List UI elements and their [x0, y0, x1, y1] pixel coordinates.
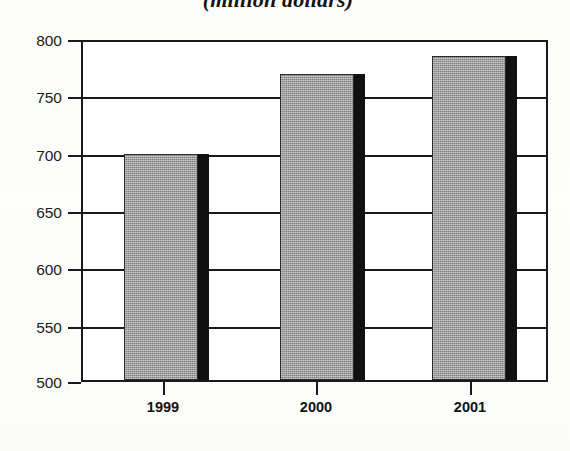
y-tick-mark-500: [68, 382, 81, 384]
y-tick-label-650: 650: [16, 205, 62, 221]
bar-body-2001: [432, 56, 506, 380]
plot-area: [81, 40, 548, 382]
y-tick-label-600: 600: [16, 262, 62, 278]
x-tick-label-2001: 2001: [420, 399, 520, 415]
y-tick-mark-650: [68, 212, 81, 214]
x-tick-mark-1999: [163, 382, 165, 395]
chart-title: (million dollars): [0, 0, 556, 13]
x-tick-label-2000: 2000: [266, 399, 366, 415]
y-tick-mark-750: [68, 97, 81, 99]
y-tick-mark-600: [68, 269, 81, 271]
y-tick-label-550: 550: [16, 320, 62, 336]
y-tick-mark-550: [68, 327, 81, 329]
y-tick-mark-700: [68, 155, 81, 157]
y-tick-label-700: 700: [16, 148, 62, 164]
bar-body-1999: [124, 154, 198, 380]
bar-body-2000: [280, 74, 354, 380]
y-tick-label-500: 500: [16, 375, 62, 391]
bar-1999[interactable]: [124, 154, 209, 380]
x-tick-mark-2001: [470, 382, 472, 395]
y-tick-label-750: 750: [16, 90, 62, 106]
bar-2001[interactable]: [432, 56, 517, 380]
y-tick-label-800: 800: [16, 33, 62, 49]
bar-2000[interactable]: [280, 74, 365, 380]
x-tick-label-1999: 1999: [113, 399, 213, 415]
x-tick-mark-2000: [316, 382, 318, 395]
y-tick-mark-800: [68, 40, 81, 42]
